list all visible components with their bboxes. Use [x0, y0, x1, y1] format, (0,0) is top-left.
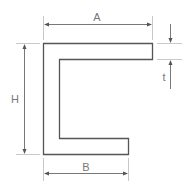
c-profile-outline	[44, 44, 153, 155]
label-h: H	[11, 93, 19, 105]
dimension-b: B	[44, 158, 129, 181]
dimension-a: A	[44, 11, 153, 40]
c-channel-diagram: A t H B	[0, 0, 193, 191]
label-b: B	[82, 161, 89, 173]
dimension-h: H	[11, 44, 40, 155]
label-t: t	[162, 71, 165, 83]
dimension-t: t	[157, 24, 182, 89]
label-a: A	[93, 11, 101, 23]
